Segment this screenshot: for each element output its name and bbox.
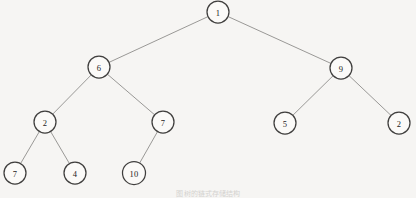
tree-node[interactable]: 7 bbox=[152, 111, 174, 133]
tree-node-label: 1 bbox=[216, 8, 220, 18]
tree-diagram-page: 16927527410 图 树的链式存储结构 bbox=[0, 0, 416, 198]
nodes-group: 16927527410 bbox=[4, 1, 410, 185]
tree-edge bbox=[107, 74, 154, 115]
tree-node[interactable]: 4 bbox=[64, 162, 86, 184]
tree-node[interactable]: 9 bbox=[330, 57, 352, 79]
tree-edge bbox=[293, 76, 333, 116]
tree-node-label: 5 bbox=[283, 119, 287, 129]
tree-node-label: 10 bbox=[130, 169, 139, 179]
binary-tree-svg: 16927527410 bbox=[0, 0, 416, 198]
tree-node-label: 9 bbox=[339, 64, 343, 74]
tree-edge bbox=[51, 131, 70, 163]
tree-node[interactable]: 2 bbox=[388, 112, 410, 134]
tree-edge bbox=[140, 132, 158, 163]
tree-node[interactable]: 10 bbox=[123, 162, 146, 185]
tree-node-label: 7 bbox=[13, 169, 17, 179]
tree-edge bbox=[349, 76, 391, 116]
tree-node-label: 4 bbox=[73, 169, 78, 179]
tree-node-label: 6 bbox=[97, 63, 101, 73]
figure-caption: 图 树的链式存储结构 bbox=[0, 190, 416, 198]
tree-node[interactable]: 1 bbox=[207, 1, 229, 23]
tree-edge bbox=[228, 17, 331, 64]
tree-node[interactable]: 2 bbox=[34, 111, 56, 133]
tree-node-label: 2 bbox=[397, 119, 401, 129]
tree-node-label: 7 bbox=[161, 118, 165, 128]
tree-node[interactable]: 5 bbox=[274, 112, 296, 134]
tree-edge bbox=[109, 17, 208, 63]
tree-node[interactable]: 6 bbox=[88, 56, 110, 78]
tree-node-label: 2 bbox=[43, 118, 47, 128]
tree-edge bbox=[53, 75, 92, 114]
tree-node[interactable]: 7 bbox=[4, 162, 26, 184]
tree-edge bbox=[21, 131, 40, 163]
edges-group bbox=[21, 17, 391, 164]
